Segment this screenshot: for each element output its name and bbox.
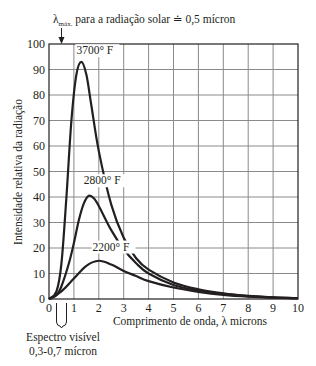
y-tick-label: 0 [39, 292, 45, 306]
y-tick-label: 30 [33, 216, 45, 230]
visible-spectrum-label: Espectro visível [26, 331, 100, 344]
x-tick-label: 7 [220, 301, 226, 315]
x-tick-labels: 012345678910 [46, 301, 304, 315]
x-axis-label: Comprimento de onda, λ microns [113, 315, 268, 328]
visible-spectrum-range: 0,3-0,7 mícron [29, 345, 97, 358]
y-axis-label: Intensidade relativa da radiação [12, 99, 25, 245]
x-tick-label: 10 [292, 301, 304, 315]
y-tick-label: 60 [33, 139, 45, 153]
curve-label: 2800° F [84, 174, 121, 186]
x-tick-label: 8 [245, 301, 251, 315]
x-tick-label: 5 [171, 301, 177, 315]
y-tick-label: 20 [33, 241, 45, 255]
y-tick-label: 70 [33, 114, 45, 128]
x-tick-label: 3 [121, 301, 127, 315]
y-tick-label: 80 [33, 88, 45, 102]
y-tick-label: 100 [27, 37, 45, 51]
x-tick-label: 2 [96, 301, 102, 315]
lambda-max-arrow-icon [59, 28, 65, 44]
radiation-intensity-chart: 0102030405060708090100 012345678910 3700… [0, 0, 316, 366]
y-tick-label: 90 [33, 63, 45, 77]
y-tick-label: 50 [33, 165, 45, 179]
x-tick-label: 0 [46, 301, 52, 315]
x-tick-label: 6 [195, 301, 201, 315]
y-tick-label: 10 [33, 267, 45, 281]
grid-lines [49, 44, 298, 299]
lambda-max-annotation: λmáx. para a radiação solar ≐ 0,5 mícron [53, 13, 236, 28]
x-tick-label: 9 [270, 301, 276, 315]
x-tick-label: 1 [71, 301, 77, 315]
visible-spectrum-bracket [57, 303, 67, 328]
curve-label: 3700° F [76, 44, 113, 56]
x-tick-label: 4 [146, 301, 152, 315]
y-tick-label: 40 [33, 190, 45, 204]
curve-label: 2200° F [93, 241, 130, 253]
y-tick-labels: 0102030405060708090100 [27, 37, 45, 306]
